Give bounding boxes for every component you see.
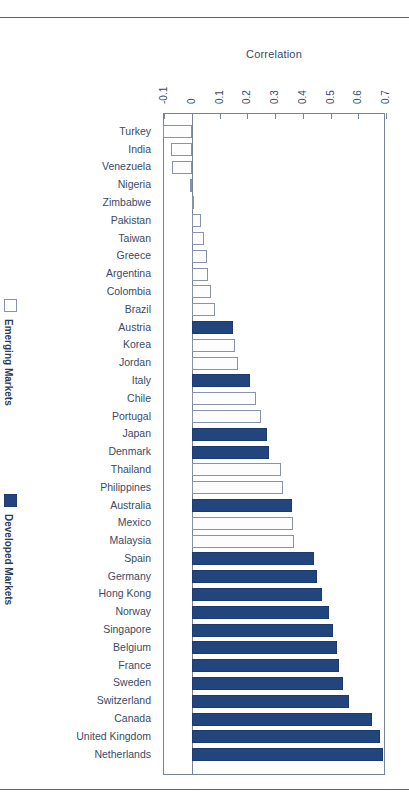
category-label: Japan bbox=[122, 427, 151, 439]
bar-zimbabwe bbox=[192, 196, 194, 209]
category-label: Belgium bbox=[113, 641, 151, 653]
bar-philippines bbox=[192, 481, 284, 494]
bar-japan bbox=[192, 428, 267, 441]
category-label: Philippines bbox=[100, 481, 151, 493]
bar-venezuela bbox=[172, 161, 192, 174]
category-label: Hong Kong bbox=[98, 587, 151, 599]
category-label: Canada bbox=[114, 712, 151, 724]
x-tick-label: 0.6 bbox=[352, 64, 363, 104]
bar-switzerland bbox=[192, 695, 349, 708]
category-label: Italy bbox=[132, 374, 151, 386]
bar-sweden bbox=[192, 677, 343, 690]
category-label: Taiwan bbox=[118, 232, 151, 244]
plot-area bbox=[163, 113, 385, 775]
category-label: Spain bbox=[124, 552, 151, 564]
bar-singapore bbox=[192, 624, 334, 637]
category-label: Mexico bbox=[118, 516, 151, 528]
x-tick-label: 0.1 bbox=[214, 64, 225, 104]
x-axis-tick bbox=[220, 113, 221, 119]
category-label: Austria bbox=[118, 321, 151, 333]
x-axis-tick bbox=[164, 113, 165, 119]
x-tick-label: 0.7 bbox=[380, 64, 391, 104]
zero-baseline bbox=[192, 114, 193, 774]
bar-argentina bbox=[192, 268, 209, 281]
category-label: Denmark bbox=[108, 445, 151, 457]
x-tick-label: 0.4 bbox=[297, 64, 308, 104]
category-label: Sweden bbox=[113, 676, 151, 688]
bar-australia bbox=[192, 499, 292, 512]
category-label: Malaysia bbox=[110, 534, 151, 546]
category-label: Turkey bbox=[119, 125, 151, 137]
bar-portugal bbox=[192, 410, 261, 423]
bar-korea bbox=[192, 339, 235, 352]
bar-austria bbox=[192, 321, 234, 334]
bar-nigeria bbox=[190, 179, 192, 192]
bar-spain bbox=[192, 552, 314, 565]
category-label: France bbox=[118, 659, 151, 671]
bar-pakistan bbox=[192, 214, 202, 227]
category-label: Colombia bbox=[107, 285, 151, 297]
x-axis-tick bbox=[247, 113, 248, 119]
bar-italy bbox=[192, 374, 250, 387]
x-axis-tick bbox=[386, 113, 387, 119]
category-label: Singapore bbox=[103, 623, 151, 635]
bar-united-kingdom bbox=[192, 730, 381, 743]
bar-jordan bbox=[192, 357, 238, 370]
category-label: Brazil bbox=[125, 303, 151, 315]
bar-norway bbox=[192, 606, 329, 619]
bar-turkey bbox=[163, 125, 192, 138]
bar-denmark bbox=[192, 446, 270, 459]
x-axis-tick bbox=[275, 113, 276, 119]
bar-malaysia bbox=[192, 535, 295, 548]
category-label: Nigeria bbox=[118, 178, 151, 190]
x-axis-tick bbox=[331, 113, 332, 119]
bar-netherlands bbox=[192, 748, 383, 761]
category-label: India bbox=[128, 143, 151, 155]
category-label: Venezuela bbox=[102, 160, 151, 172]
category-label: Jordan bbox=[119, 356, 151, 368]
category-label: Germany bbox=[108, 570, 151, 582]
bar-india bbox=[171, 143, 192, 156]
x-axis-tick-labels: -0.100.10.20.30.40.50.60.7 bbox=[0, 0, 409, 100]
x-axis-tick bbox=[192, 113, 193, 119]
bar-france bbox=[192, 659, 339, 672]
category-label: Pakistan bbox=[111, 214, 151, 226]
bottom-divider-rule bbox=[0, 789, 409, 790]
x-tick-label: 0.5 bbox=[325, 64, 336, 104]
category-label: Netherlands bbox=[94, 748, 151, 760]
category-label: Norway bbox=[115, 605, 151, 617]
category-label: United Kingdom bbox=[76, 730, 151, 742]
category-label: Zimbabwe bbox=[103, 196, 151, 208]
category-label: Chile bbox=[127, 392, 151, 404]
x-axis-tick bbox=[303, 113, 304, 119]
x-tick-label: 0.3 bbox=[269, 64, 280, 104]
category-label: Switzerland bbox=[97, 694, 151, 706]
x-axis-tick bbox=[358, 113, 359, 119]
category-label: Australia bbox=[110, 499, 151, 511]
bar-mexico bbox=[192, 517, 293, 530]
category-label: Argentina bbox=[106, 267, 151, 279]
bar-greece bbox=[192, 250, 207, 263]
bar-canada bbox=[192, 713, 372, 726]
category-label: Portugal bbox=[112, 410, 151, 422]
x-tick-label: 0.2 bbox=[241, 64, 252, 104]
bar-hong-kong bbox=[192, 588, 322, 601]
bar-brazil bbox=[192, 303, 216, 316]
chart-page: Correlation -0.100.10.20.30.40.50.60.7 E… bbox=[0, 0, 409, 804]
x-tick-label: 0 bbox=[186, 64, 197, 104]
category-label: Thailand bbox=[111, 463, 151, 475]
category-label: Korea bbox=[123, 338, 151, 350]
category-axis-labels: TurkeyIndiaVenezuelaNigeriaZimbabwePakis… bbox=[0, 113, 159, 775]
bar-belgium bbox=[192, 641, 338, 654]
bar-germany bbox=[192, 570, 317, 583]
bar-thailand bbox=[192, 463, 281, 476]
bar-taiwan bbox=[192, 232, 204, 245]
bar-colombia bbox=[192, 285, 211, 298]
bar-chile bbox=[192, 392, 256, 405]
x-tick-label: -0.1 bbox=[158, 64, 169, 104]
category-label: Greece bbox=[117, 249, 151, 261]
